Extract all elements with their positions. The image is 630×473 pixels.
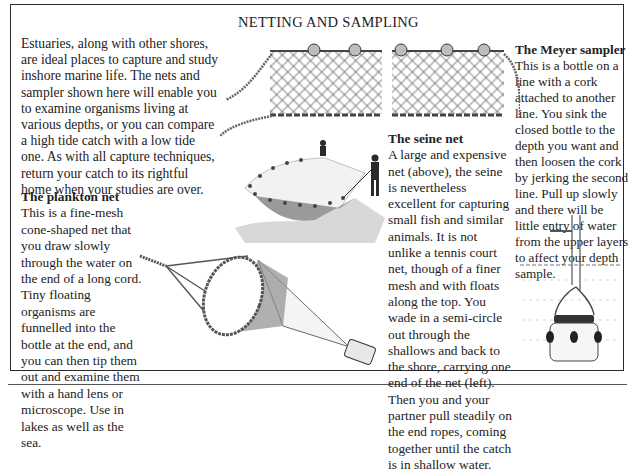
intro-paragraph: Estuaries, along with other shores, are … bbox=[21, 36, 221, 198]
plankton-net-heading: The plankton net bbox=[21, 189, 146, 205]
meyer-sampler-illustration bbox=[510, 215, 622, 365]
seine-net-illustration bbox=[220, 38, 520, 138]
seine-net-body: A large and expensive net (above), the s… bbox=[388, 147, 512, 472]
plankton-net-section: The plankton net This is a fine-mesh con… bbox=[21, 189, 146, 452]
meyer-sampler-heading: The Meyer sampler bbox=[515, 42, 630, 58]
seine-net-in-use-illustration bbox=[225, 128, 395, 248]
plankton-net-body: This is a fine-mesh cone-shaped net that… bbox=[21, 205, 141, 450]
plankton-net-illustration bbox=[138, 248, 388, 370]
page-title: NETTING AND SAMPLING bbox=[238, 14, 419, 31]
seine-net-section: The seine net A large and expensive net … bbox=[388, 131, 513, 473]
